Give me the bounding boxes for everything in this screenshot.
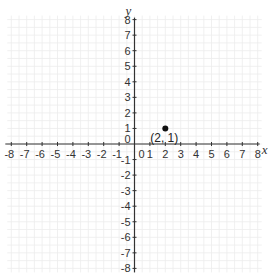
origin-y-label: 0 (124, 133, 130, 145)
x-tick-label: 7 (239, 148, 245, 160)
x-tick-label: 8 (255, 148, 261, 160)
x-tick-label: -4 (66, 148, 76, 160)
y-tick-label: 1 (124, 122, 130, 134)
y-tick-label: -8 (121, 262, 131, 274)
y-tick-label: 2 (124, 107, 130, 119)
y-tick-label: -6 (121, 231, 131, 243)
origin-x-label: 0 (138, 148, 144, 160)
y-tick-label: 4 (124, 76, 130, 88)
x-tick-label: 4 (193, 148, 199, 160)
y-tick-label: -3 (121, 185, 131, 197)
x-tick-label: 5 (208, 148, 214, 160)
y-tick-label: -2 (121, 169, 131, 181)
x-tick-label: -8 (4, 148, 14, 160)
y-axis-label: y (124, 3, 132, 18)
y-tick-label: -4 (121, 200, 131, 212)
y-tick-label: 6 (124, 45, 130, 57)
y-tick-label: 5 (124, 60, 130, 72)
y-tick-label: -1 (121, 154, 131, 166)
x-tick-label: 3 (178, 148, 184, 160)
y-tick-label: -5 (121, 216, 131, 228)
x-axis-label: x (261, 142, 268, 157)
y-tick-label: 7 (124, 29, 130, 41)
x-tick-label: 1 (147, 148, 153, 160)
coordinate-plane: -8-7-6-5-4-3-2-11234567800-8-7-6-5-4-3-2… (0, 0, 268, 278)
y-tick-label: -7 (121, 247, 131, 259)
x-tick-label: -5 (51, 148, 61, 160)
x-tick-label: -3 (81, 148, 91, 160)
axes (5, 18, 259, 273)
x-tick-label: -2 (97, 148, 107, 160)
point-label: (2, 1) (150, 131, 178, 145)
x-tick-label: 6 (224, 148, 230, 160)
y-tick-label: 3 (124, 91, 130, 103)
x-tick-label: -6 (35, 148, 45, 160)
x-tick-label: 2 (162, 148, 168, 160)
x-tick-label: -7 (20, 148, 30, 160)
